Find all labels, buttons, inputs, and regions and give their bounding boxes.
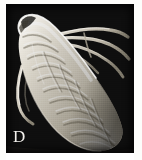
caption-strip [6, 153, 134, 160]
figure-panel: D [0, 0, 142, 160]
panel-letter-label: D [13, 126, 35, 148]
sem-micrograph-plate: D [6, 4, 134, 153]
